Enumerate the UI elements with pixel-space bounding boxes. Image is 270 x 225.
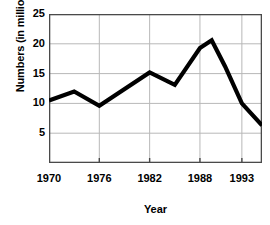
- x-tick-label: 1976: [74, 172, 124, 184]
- x-tick-label: 1970: [24, 172, 74, 184]
- y-axis-tick-labels: 510152025: [0, 0, 45, 225]
- chart-figure: Numbers (in millions) 510152025 19701976…: [0, 0, 270, 225]
- y-tick-label: 20: [5, 38, 45, 49]
- plot-frame: [50, 15, 262, 163]
- x-tick-label: 1982: [125, 172, 175, 184]
- x-tick-label: 1993: [217, 172, 267, 184]
- series-numbers-polyline: [49, 40, 262, 125]
- plot-area: [49, 14, 262, 163]
- line-chart-svg: [49, 14, 262, 163]
- data-series-line: [49, 40, 262, 125]
- y-tick-label: 5: [5, 127, 45, 138]
- y-tick-label: 15: [5, 68, 45, 79]
- y-tick-label: 10: [5, 97, 45, 108]
- x-axis-title: Year: [49, 203, 262, 215]
- y-tick-label: 25: [5, 8, 45, 19]
- gridlines: [49, 14, 262, 163]
